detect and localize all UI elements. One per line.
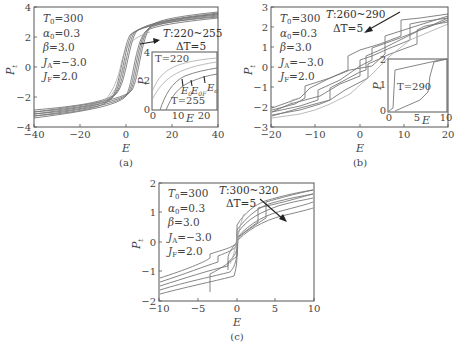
panel-a-ytick: 4 [25, 2, 31, 13]
svg-text:α0=0.3: α0=0.3 [43, 27, 80, 41]
svg-text:JA=−3.0: JA=−3.0 [166, 231, 212, 245]
panel-a-xtick: 20 [166, 129, 179, 140]
inset-b-ylabel: P [371, 82, 384, 91]
panel-b-params: T0=300 α0=0.3 β=3.0 JA=−3.0 JF=2.0 [278, 12, 324, 84]
panel-a-ytick: 2 [25, 32, 31, 43]
svg-text:α0=0.3: α0=0.3 [280, 27, 317, 41]
svg-text:Pt: Pt [4, 65, 19, 76]
svg-text:JF=2.0: JF=2.0 [41, 70, 78, 84]
svg-text:β=3.0: β=3.0 [279, 41, 312, 53]
svg-text:α0=0.3: α0=0.3 [168, 202, 205, 216]
panel-b-ytick: 3 [262, 2, 268, 13]
panel-b-ytick: 1 [262, 42, 268, 53]
panel-b-xtick: 20 [442, 129, 455, 140]
inset-b-ytick: 2 [380, 54, 386, 65]
inset-a-ylabel: P [136, 77, 149, 86]
svg-text:Pt: Pt [242, 65, 257, 76]
panel-b-ytick: 2 [262, 22, 268, 33]
panel-a-inset: T=220 T=255 E0 E0F Ec 0 2 4 0 10 20 E P [136, 47, 218, 125]
panel-c-ylabel: Pt [130, 239, 145, 250]
panel-a-xtick: 0 [123, 129, 129, 140]
panel-c-temp-range: T:300~320 [219, 184, 278, 196]
inset-b-xtick: 0 [386, 112, 392, 123]
panel-b-delta-t: ΔT=5 [333, 22, 363, 34]
panel-a-xtick: −20 [69, 129, 90, 140]
svg-text:Pt: Pt [130, 239, 145, 250]
inset-b-t-label: T=290 [397, 81, 431, 92]
panel-b-ytick: −3 [253, 122, 268, 133]
inset-a-xtick: 10 [172, 110, 185, 121]
svg-text:T0=300: T0=300 [280, 12, 320, 26]
panel-b-ytick: −1 [253, 82, 268, 93]
panel-a-ytick: 0 [25, 62, 31, 73]
panel-b-caption: (b) [353, 157, 367, 168]
figure: −40 −20 0 20 40 4 2 0 −2 −4 E Pt (a) T0=… [0, 0, 459, 343]
svg-text:T0=300: T0=300 [168, 187, 208, 201]
panel-c-xtick: 5 [272, 303, 278, 314]
panel-a-ylabel: Pt [4, 65, 19, 76]
panel-c-ytick: −2 [141, 296, 156, 307]
panel-a-params: T0=300 α0=0.3 β=3.0 JA=−3.0 JF=2.0 [41, 12, 87, 84]
panel-a-xtick: 40 [212, 129, 225, 140]
panel-b-xtick: 10 [398, 129, 411, 140]
panel-a-xlabel: E [121, 142, 130, 155]
inset-a-xtick: 0 [150, 110, 156, 121]
inset-a-xlabel: E [185, 112, 194, 125]
panel-c-params: T0=300 α0=0.3 β=3.0 JA=−3.0 JF=2.0 [166, 187, 212, 259]
svg-text:JA=−3.0: JA=−3.0 [41, 56, 87, 70]
panel-b-temp-range: T:260~290 [326, 8, 385, 20]
panel-c-xlabel: E [232, 316, 241, 329]
panel-c-arrow [260, 199, 283, 219]
svg-text:JF=2.0: JF=2.0 [278, 70, 315, 84]
panel-b-xtick: −10 [304, 129, 325, 140]
panel-c-xtick: 0 [234, 303, 240, 314]
arrow-head-icon [364, 26, 373, 33]
svg-text:T0=300: T0=300 [43, 12, 83, 26]
panel-b: −20 −10 0 10 20 3 2 1 0 −1 −2 −3 E Pt (b… [242, 2, 454, 168]
panel-c-ytick: 1 [150, 207, 156, 218]
panel-c-ytick: −1 [141, 266, 156, 277]
panel-a-caption: (a) [119, 157, 133, 168]
panel-a: −40 −20 0 20 40 4 2 0 −2 −4 E Pt (a) T0=… [4, 2, 224, 168]
panel-c-xtick: 10 [308, 303, 321, 314]
panel-b-xtick: 0 [357, 129, 363, 140]
svg-text:JF=2.0: JF=2.0 [166, 245, 203, 259]
inset-b-xtick: 10 [440, 112, 453, 123]
panel-b-ytick: −2 [253, 102, 268, 113]
inset-a-t-top: T=220 [155, 53, 189, 64]
svg-text:β=3.0: β=3.0 [42, 41, 75, 53]
panel-b-ytick: 0 [262, 62, 268, 73]
panel-a-delta-t: ΔT=5 [176, 40, 206, 52]
panel-c-ytick: 2 [150, 178, 156, 189]
panel-c-ytick: 0 [150, 237, 156, 248]
panel-b-xlabel: E [355, 142, 364, 155]
panel-c-xtick: −5 [191, 303, 206, 314]
inset-b-xlabel: E [421, 114, 430, 127]
panel-b-inset: T=290 0 1 2 0 5 10 E P [371, 54, 452, 127]
inset-a-ytick: 4 [144, 47, 150, 58]
svg-text:β=3.0: β=3.0 [167, 216, 200, 228]
svg-text:JA=−3.0: JA=−3.0 [278, 56, 324, 70]
panel-a-temp-range: T:220~255 [163, 27, 222, 39]
panel-a-ytick: −2 [16, 92, 31, 103]
arrow-head-icon [153, 38, 160, 44]
panel-c-delta-t: ΔT=5 [226, 197, 256, 209]
panel-c: −10 −5 0 5 10 2 1 0 −1 −2 E Pt (c) T0=30… [130, 178, 320, 342]
panel-c-caption: (c) [230, 331, 244, 342]
panel-a-ytick: −4 [16, 122, 31, 133]
panel-b-ylabel: Pt [242, 65, 257, 76]
inset-a-xtick: 20 [198, 110, 211, 121]
inset-b-xtick: 5 [414, 112, 420, 123]
